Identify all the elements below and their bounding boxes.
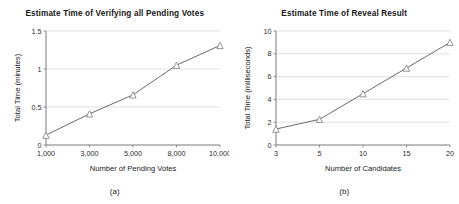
y-axis-title: Total Time (milliseconds) xyxy=(243,46,252,130)
y-tick-label: 8 xyxy=(267,49,271,58)
x-tick-label: 8,000 xyxy=(168,149,186,158)
data-point-marker xyxy=(446,39,452,45)
panel-caption-b: (b) xyxy=(230,187,459,196)
x-tick-label: 10 xyxy=(359,149,367,158)
x-tick-label: 10,000 xyxy=(209,149,229,158)
x-axis-title: Number of Candidates xyxy=(325,164,401,173)
chart-plot-a: 00.511.51,0003,0005,0008,00010,000Number… xyxy=(0,0,229,180)
x-tick-label: 15 xyxy=(402,149,410,158)
panel-caption-a: (a) xyxy=(0,187,230,196)
x-tick-label: 20 xyxy=(446,149,454,158)
chart-panel-a: Estimate Time of Verifying all Pending V… xyxy=(0,0,230,204)
x-tick-label: 5 xyxy=(317,149,321,158)
data-point-marker xyxy=(359,91,365,97)
data-point-marker xyxy=(43,132,49,138)
y-tick-label: 1.5 xyxy=(32,27,42,36)
chart-panel-b: Estimate Time of Reveal Result 024681035… xyxy=(230,0,459,204)
data-point-marker xyxy=(130,92,136,98)
chart-plot-b: 024681035101520Number of CandidatesTotal… xyxy=(230,0,459,180)
data-series-line xyxy=(276,42,450,129)
data-series-line xyxy=(46,45,220,135)
data-point-marker xyxy=(403,65,409,71)
x-tick-label: 1,000 xyxy=(37,149,55,158)
y-tick-label: 0.5 xyxy=(32,103,42,112)
y-tick-label: 1 xyxy=(38,65,42,74)
data-point-marker xyxy=(86,111,92,117)
data-point-marker xyxy=(217,42,223,48)
x-tick-label: 5,000 xyxy=(124,149,142,158)
x-tick-label: 3 xyxy=(274,149,278,158)
y-tick-label: 4 xyxy=(267,95,271,104)
figure-container: Estimate Time of Verifying all Pending V… xyxy=(0,0,459,204)
y-tick-label: 6 xyxy=(267,72,271,81)
x-tick-label: 3,000 xyxy=(81,149,99,158)
y-tick-label: 0 xyxy=(267,141,271,150)
y-axis-title: Total Time (minutes) xyxy=(13,53,22,122)
x-axis-title: Number of Pending Votes xyxy=(90,164,177,173)
data-point-marker xyxy=(173,62,179,68)
y-tick-label: 10 xyxy=(263,27,271,36)
y-tick-label: 2 xyxy=(267,118,271,127)
